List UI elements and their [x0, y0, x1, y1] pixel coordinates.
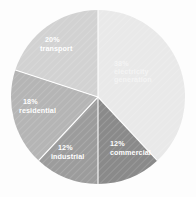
pie-label-commercial-name: commercial — [110, 148, 151, 157]
pie-label-transport-percent: 20% — [45, 35, 60, 44]
pie-label-industrial-percent: 12% — [58, 143, 73, 152]
pie-label-transport-name: transport — [40, 44, 73, 53]
pie-label-commercial-percent: 12% — [110, 139, 125, 148]
pie-label-residential-name: residential — [19, 106, 56, 115]
pie-label-electricity-generation-name-line2: generation — [114, 75, 152, 84]
pie-label-industrial-name: industrial — [51, 152, 84, 161]
pie-label-residential-percent: 18% — [23, 97, 38, 106]
pie-chart-svg: 38% electricity generation 12% commercia… — [0, 0, 196, 197]
pie-chart-figure: 38% electricity generation 12% commercia… — [0, 0, 196, 197]
